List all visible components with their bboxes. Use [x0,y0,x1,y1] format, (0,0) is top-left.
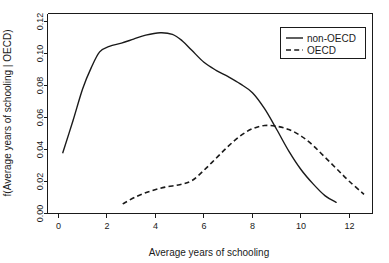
chart-legend: non-OECD OECD [281,28,366,59]
y-tick-label: 0.04 [35,141,45,159]
y-axis-label: f(Average years of schooling | OECD) [2,30,13,197]
y-tick-label: 0.06 [35,109,45,127]
legend-label-oecd: OECD [307,45,336,56]
y-tick-label: 0.02 [35,173,45,191]
y-tick-label: 0.08 [35,77,45,95]
x-tick-label: 4 [153,221,158,231]
x-tick-label: 8 [250,221,255,231]
x-axis-ticks: 024681012 [56,214,355,231]
x-tick-label: 6 [201,221,206,231]
x-tick-label: 2 [104,221,109,231]
y-tick-label: 0.10 [35,45,45,63]
y-tick-label: 0.12 [35,13,45,31]
x-axis-label: Average years of schooling [149,247,269,258]
y-tick-label: 0.00 [35,205,45,223]
legend-label-non-oecd: non-OECD [307,33,356,44]
y-axis-ticks: 0.000.020.040.060.080.100.12 [35,13,48,223]
series-line-oecd [123,125,364,204]
x-tick-label: 12 [344,221,354,231]
x-tick-label: 0 [56,221,61,231]
chart-canvas: 024681012 0.000.020.040.060.080.100.12 A… [0,0,389,263]
density-plot-figure: 024681012 0.000.020.040.060.080.100.12 A… [0,0,389,263]
x-tick-label: 10 [296,221,306,231]
